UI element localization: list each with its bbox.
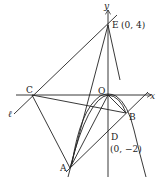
point-d-coord: (0, −2) — [110, 144, 142, 154]
point-b-label: B — [129, 112, 136, 122]
point-d-label: D — [111, 132, 118, 142]
point-a-label: A — [59, 163, 67, 173]
line-l-label: ℓ — [8, 109, 12, 119]
segment-e-right — [108, 25, 120, 80]
x-axis-label: x — [150, 91, 155, 101]
point-o-label: O — [98, 86, 105, 96]
point-e-coord: (0, 4) — [121, 20, 145, 30]
point-e-label: E — [112, 20, 119, 30]
segment-ca — [32, 95, 70, 168]
point-c-label: C — [26, 85, 33, 95]
parabola — [72, 94, 146, 177]
coordinate-diagram: y x E (0, 4) O D (0, −2) B C A ℓ — [0, 0, 156, 177]
y-axis-label: y — [103, 1, 110, 11]
line-l — [14, 15, 117, 114]
segment-cb — [32, 95, 126, 113]
